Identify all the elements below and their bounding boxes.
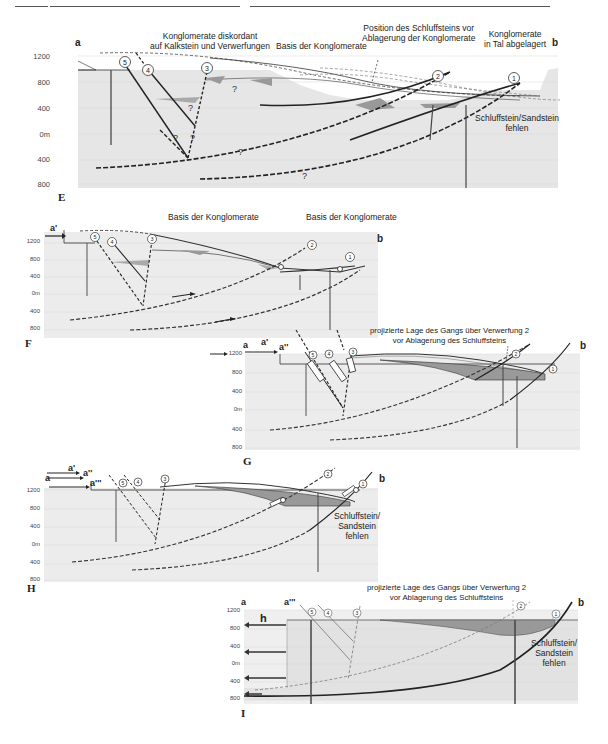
section-end-a: a: [241, 597, 246, 607]
svg-text:1: 1: [362, 481, 365, 487]
svg-text:3: 3: [205, 65, 209, 72]
y-tick: 400: [220, 388, 242, 394]
y-tick: 400: [220, 426, 242, 432]
svg-text:5: 5: [312, 352, 315, 358]
y-tick: 400: [218, 678, 240, 684]
panel-f: 5 4 3 2 1 a' b 1200 800 400 0m 400 800 B…: [0, 200, 608, 340]
y-tick: 800: [218, 625, 240, 631]
svg-text:1: 1: [512, 75, 516, 82]
annotation-valley: Konglomeratein Tal abgelagert: [484, 29, 546, 49]
svg-text:2: 2: [515, 351, 518, 357]
annotation-discordant: Konglomerate diskordantauf Kalkstein und…: [150, 31, 270, 51]
cross-section-f: 5 4 3 2 1: [0, 200, 608, 340]
svg-text:1: 1: [348, 254, 351, 260]
section-end-b: b: [377, 233, 383, 244]
svg-text:4: 4: [146, 67, 150, 74]
annotation-position: Position des Schluffsteins vorAblagerung…: [362, 23, 475, 43]
svg-text:5: 5: [122, 480, 125, 486]
section-end-a: a: [45, 473, 50, 483]
section-end-a-prime: a': [261, 337, 268, 347]
y-tick: 800: [220, 369, 242, 375]
annotation-projected: projizierte Lage des Gangs über Verwerfu…: [370, 326, 529, 346]
svg-text:2: 2: [436, 73, 440, 80]
panel-label-f: F: [25, 337, 32, 349]
svg-text:3: 3: [150, 236, 153, 242]
y-tick: 0m: [18, 290, 40, 296]
svg-text:?: ?: [173, 133, 178, 143]
panel-label-i: I: [241, 707, 245, 719]
y-tick: 400: [18, 273, 40, 279]
y-tick: 800: [18, 505, 40, 511]
svg-text:4: 4: [110, 239, 113, 245]
panel-h: 5 4 3 2 1 a a' a'' a''' b 1200 800 400 0…: [0, 460, 400, 590]
y-tick: 1200: [18, 238, 40, 244]
y-tick: 1200: [28, 52, 50, 61]
svg-text:3: 3: [356, 610, 359, 616]
y-tick: 400: [218, 643, 240, 649]
y-tick: 800: [28, 78, 50, 87]
panel-g: 5 4 3 2 1 a a' a'' b 1200 800 400 0m 400…: [200, 330, 608, 470]
y-tick: 400: [28, 104, 50, 113]
section-end-a-triple-prime: a''': [90, 478, 101, 488]
section-end-a-double-prime: a'': [83, 468, 92, 478]
y-tick: 400: [18, 308, 40, 314]
svg-text:3: 3: [352, 349, 355, 355]
svg-text:1: 1: [552, 366, 555, 372]
y-tick: 800: [28, 180, 50, 189]
y-tick: 400: [28, 155, 50, 164]
annotation-basis: Basis der Konglomerate: [276, 41, 367, 51]
section-end-b: b: [580, 340, 586, 351]
y-tick: 1200: [218, 607, 240, 613]
y-tick: 800: [18, 325, 40, 331]
annotation-missing: Schluffstein/Sandsteinfehlen: [334, 511, 380, 541]
y-tick: 800: [220, 444, 242, 450]
panel-e: 5 4 3 2 1 ? ? ? ? ? ? a b 1200 800 400 0…: [0, 0, 608, 200]
section-end-a: a: [75, 37, 81, 48]
svg-text:3: 3: [164, 476, 167, 482]
svg-text:1: 1: [555, 611, 558, 617]
svg-text:?: ?: [188, 103, 193, 113]
y-tick: 0m: [18, 541, 40, 547]
svg-text:4: 4: [328, 351, 331, 357]
y-tick: 400: [18, 559, 40, 565]
y-tick: 1200: [18, 487, 40, 493]
y-tick: 0m: [218, 660, 240, 666]
section-end-a-double-prime: a'': [279, 342, 288, 352]
section-end-b: b: [379, 473, 385, 484]
svg-text:?: ?: [232, 84, 237, 94]
y-tick: 800: [18, 256, 40, 262]
svg-text:5: 5: [123, 59, 127, 66]
y-tick: 0m: [28, 130, 50, 139]
svg-text:2: 2: [310, 242, 313, 248]
y-tick: 1200: [220, 350, 242, 356]
section-end-a-prime: a': [50, 223, 57, 233]
section-end-b: b: [578, 597, 584, 608]
annotation-projected: projizierte Lage des Gangs über Verwerfu…: [367, 583, 526, 603]
annotation-missing: Schluffstein/Sandsteinfehlen: [475, 113, 559, 133]
section-end-b: b: [552, 37, 558, 48]
section-end-a-prime: a': [68, 463, 75, 473]
svg-text:5: 5: [311, 609, 314, 615]
section-end-a: a: [243, 340, 248, 350]
annotation-missing: Schluffstein/Sandsteinfehlen: [531, 638, 577, 668]
svg-text:?: ?: [302, 171, 307, 181]
extension-label-h: h: [260, 612, 267, 624]
cross-section-g: 5 4 3 2 1: [200, 330, 608, 470]
svg-text:2: 2: [327, 471, 330, 477]
y-tick: 0m: [220, 406, 242, 412]
panel-label-h: H: [27, 582, 36, 594]
y-tick: 800: [218, 695, 240, 701]
y-tick: 400: [18, 523, 40, 529]
svg-text:5: 5: [93, 234, 96, 240]
svg-text:4: 4: [327, 610, 330, 616]
svg-text:2: 2: [520, 603, 523, 609]
annotation-basis-left: Basis der Konglomerate: [168, 212, 259, 222]
annotation-basis-right: Basis der Konglomerate: [306, 212, 397, 222]
svg-text:?: ?: [190, 133, 195, 143]
panel-i: 5 4 3 2 1 a a''' b h 1200 800 400 0m 400…: [200, 580, 608, 744]
section-end-a-triple-prime: a''': [284, 597, 295, 607]
svg-text:?: ?: [238, 147, 243, 157]
svg-text:4: 4: [137, 479, 140, 485]
